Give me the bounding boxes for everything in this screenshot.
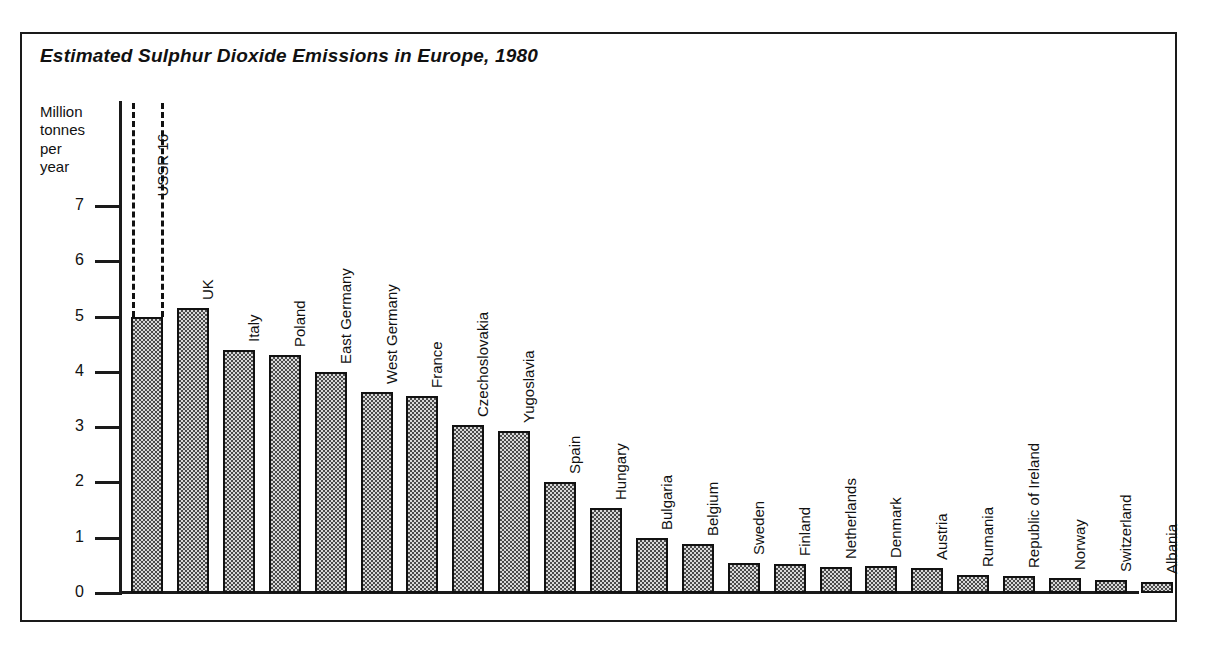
y-tick-mark (95, 371, 122, 374)
y-tick-mark (95, 260, 122, 263)
bar-label: UK (200, 279, 215, 300)
bar-label: Bulgaria (659, 475, 674, 530)
bar (865, 566, 897, 593)
bar (315, 372, 347, 593)
bar-label: Italy (246, 314, 261, 342)
bar-label: Denmark (888, 498, 903, 559)
bar (1049, 578, 1081, 593)
bar-label: Finland (797, 506, 812, 555)
bar-label: Hungary (613, 444, 628, 501)
bar (177, 308, 209, 593)
bar (728, 563, 760, 593)
bar (774, 564, 806, 593)
bar (636, 538, 668, 593)
y-tick-mark (95, 316, 122, 319)
y-tick-mark (95, 481, 122, 484)
y-tick-label: 7 (58, 197, 84, 213)
y-tick-label: 4 (58, 363, 84, 379)
bar-label: Switzerland (1118, 495, 1133, 573)
truncation-dashed-line (132, 103, 135, 317)
bar (498, 431, 530, 593)
bar-label: Belgium (705, 482, 720, 536)
bar-label: Netherlands (843, 478, 858, 559)
bar-label: Albania (1164, 524, 1179, 574)
bar-label: West Germany (384, 285, 399, 385)
y-axis-title: Milliontonnesperyear (40, 103, 110, 176)
y-axis-title-line: per (40, 140, 110, 158)
bar (590, 508, 622, 593)
y-tick-label: 0 (58, 584, 84, 600)
y-tick-mark (95, 426, 122, 429)
y-tick-label: 6 (58, 252, 84, 268)
bar (452, 425, 484, 593)
bar (1003, 576, 1035, 593)
bar-label: Yugoslavia (521, 350, 536, 423)
y-axis-title-line: tonnes (40, 121, 110, 139)
bar-label-ussr: USSR 16 (155, 134, 170, 197)
y-axis-title-line: year (40, 158, 110, 176)
y-tick-label: 2 (58, 473, 84, 489)
bar-label: Republic of Ireland (1026, 443, 1041, 568)
bar (911, 568, 943, 593)
bar-label: East Germany (338, 268, 353, 364)
bar-label: France (429, 341, 444, 388)
bar-label: Norway (1072, 519, 1087, 570)
bar (223, 350, 255, 593)
y-tick-label: 1 (58, 529, 84, 545)
bar-label: Poland (292, 300, 307, 347)
bar (269, 355, 301, 593)
bar (1095, 580, 1127, 593)
y-axis-title-line: Million (40, 103, 110, 121)
bar-label: Czechoslovakia (475, 312, 490, 417)
bar (361, 392, 393, 593)
bar-label: Austria (934, 513, 949, 560)
bar (406, 396, 438, 593)
bar (544, 482, 576, 593)
y-tick-label: 3 (58, 418, 84, 434)
bar-label: Spain (567, 436, 582, 474)
chart-page: Estimated Sulphur Dioxide Emissions in E… (0, 0, 1205, 649)
bar (1141, 582, 1173, 593)
bar (131, 317, 163, 594)
y-tick-mark (95, 592, 122, 595)
y-tick-label: 5 (58, 308, 84, 324)
y-tick-mark (95, 205, 122, 208)
y-tick-mark (95, 537, 122, 540)
bar-label: Sweden (751, 500, 766, 554)
bar (820, 567, 852, 593)
bar-label: Rumania (980, 507, 995, 567)
bar (957, 575, 989, 593)
bar (682, 544, 714, 593)
y-axis-line (119, 101, 122, 594)
plot-area: Milliontonnesperyear 01234567 USSR 16UKI… (0, 0, 1205, 649)
